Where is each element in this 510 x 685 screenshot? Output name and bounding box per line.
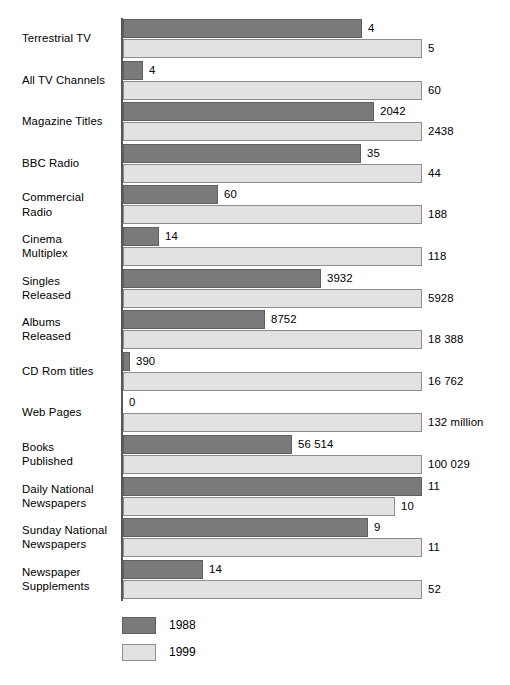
bar-value-label: 18 388 [428, 330, 463, 349]
category-label-line: Terrestrial TV [22, 31, 118, 45]
category-label-line: CD Rom titles [22, 364, 118, 378]
legend-item-1999: 1999 [122, 644, 372, 664]
category-label: BooksPublished [22, 440, 118, 468]
category-label-line: Sunday National [22, 523, 118, 537]
bar-1988 [123, 477, 422, 496]
bar-value-label: 132 million [428, 413, 484, 432]
bar-slot-1988: 35 [123, 144, 510, 163]
bar-value-label: 11 [428, 477, 440, 496]
bar-1988 [123, 61, 143, 80]
bar-1999 [123, 413, 422, 432]
bar-1999 [123, 497, 395, 516]
category-label: SinglesReleased [22, 274, 118, 302]
bar-1988 [123, 560, 203, 579]
bar-slot-1988: 4 [123, 19, 510, 38]
bar-slot-1999: 5928 [123, 289, 510, 308]
category-label-line: Daily National [22, 482, 118, 496]
bar-slot-1999: 44 [123, 164, 510, 183]
bar-1999 [123, 538, 422, 557]
bar-slot-1988: 0 [123, 393, 510, 412]
bar-value-label: 2042 [380, 102, 406, 121]
category-label-line: Singles [22, 274, 118, 288]
bar-value-label: 10 [401, 497, 414, 516]
bar-slot-1999: 11 [123, 538, 510, 557]
row-bars: 460 [123, 61, 510, 100]
category-label-line: Released [22, 329, 118, 343]
category-label: CommercialRadio [22, 190, 118, 218]
bar-value-label: 14 [209, 560, 222, 579]
category-label: CinemaMultiplex [22, 232, 118, 260]
category-label-line: Newspapers [22, 496, 118, 510]
legend-swatch-1999-icon [122, 644, 156, 661]
bar-1988 [123, 185, 218, 204]
bar-value-label: 11 [428, 538, 440, 557]
bar-value-label: 8752 [271, 310, 297, 329]
bar-slot-1999: 100 029 [123, 455, 510, 474]
bar-slot-1999: 2438 [123, 122, 510, 141]
bar-1999 [123, 39, 422, 58]
bar-1988 [123, 19, 362, 38]
chart-legend: 1988 1999 [122, 617, 372, 671]
bar-slot-1988: 8752 [123, 310, 510, 329]
row-bars: 911 [123, 518, 510, 557]
bar-1999 [123, 289, 422, 308]
category-label-line: Books [22, 440, 118, 454]
bar-1988 [123, 352, 130, 371]
category-label: AlbumsReleased [22, 315, 118, 343]
row-bars: 3544 [123, 144, 510, 183]
bar-slot-1988: 390 [123, 352, 510, 371]
category-label-line: Commercial [22, 190, 118, 204]
bar-slot-1988: 14 [123, 560, 510, 579]
row-bars: 39016 762 [123, 352, 510, 391]
bar-1999 [123, 372, 422, 391]
bar-value-label: 52 [428, 580, 441, 599]
bar-slot-1988: 2042 [123, 102, 510, 121]
row-bars: 1452 [123, 560, 510, 599]
bar-slot-1999: 18 388 [123, 330, 510, 349]
row-bars: 56 514100 029 [123, 435, 510, 474]
bar-slot-1999: 10 [123, 497, 510, 516]
bar-slot-1988: 4 [123, 61, 510, 80]
category-label-line: Newspapers [22, 537, 118, 551]
bar-value-label: 100 029 [428, 455, 470, 474]
bar-slot-1999: 118 [123, 247, 510, 266]
bar-slot-1988: 60 [123, 185, 510, 204]
category-label: Terrestrial TV [22, 31, 118, 45]
row-bars: 39325928 [123, 269, 510, 308]
bar-slot-1988: 56 514 [123, 435, 510, 454]
category-label-line: Multiplex [22, 246, 118, 260]
category-label: BBC Radio [22, 156, 118, 170]
bar-1988 [123, 269, 321, 288]
bar-1999 [123, 580, 422, 599]
bar-value-label: 14 [165, 227, 178, 246]
bar-1988 [123, 518, 368, 537]
bar-1988 [123, 102, 374, 121]
category-label-line: Published [22, 454, 118, 468]
legend-swatch-1988-icon [122, 617, 156, 634]
category-label: All TV Channels [22, 73, 118, 87]
row-bars: 20422438 [123, 102, 510, 141]
bar-value-label: 60 [428, 81, 441, 100]
bar-slot-1999: 5 [123, 39, 510, 58]
row-bars: 60188 [123, 185, 510, 224]
category-label-line: Supplements [22, 579, 118, 593]
legend-label-1988: 1988 [169, 617, 196, 634]
category-label-line: Cinema [22, 232, 118, 246]
category-label: CD Rom titles [22, 364, 118, 378]
category-label-line: Released [22, 288, 118, 302]
row-bars: 875218 388 [123, 310, 510, 349]
category-label-line: Magazine Titles [22, 114, 118, 128]
category-label: Daily NationalNewspapers [22, 482, 118, 510]
bar-1999 [123, 122, 422, 141]
bar-value-label: 2438 [428, 122, 454, 141]
bar-value-label: 60 [224, 185, 237, 204]
bar-value-label: 9 [374, 518, 380, 537]
bar-value-label: 0 [129, 393, 135, 412]
bar-1988 [123, 227, 159, 246]
bar-slot-1999: 16 762 [123, 372, 510, 391]
bar-slot-1988: 11 [123, 477, 510, 496]
category-label: Sunday NationalNewspapers [22, 523, 118, 551]
category-label-line: BBC Radio [22, 156, 118, 170]
bar-value-label: 5928 [428, 289, 454, 308]
bar-1999 [123, 247, 422, 266]
